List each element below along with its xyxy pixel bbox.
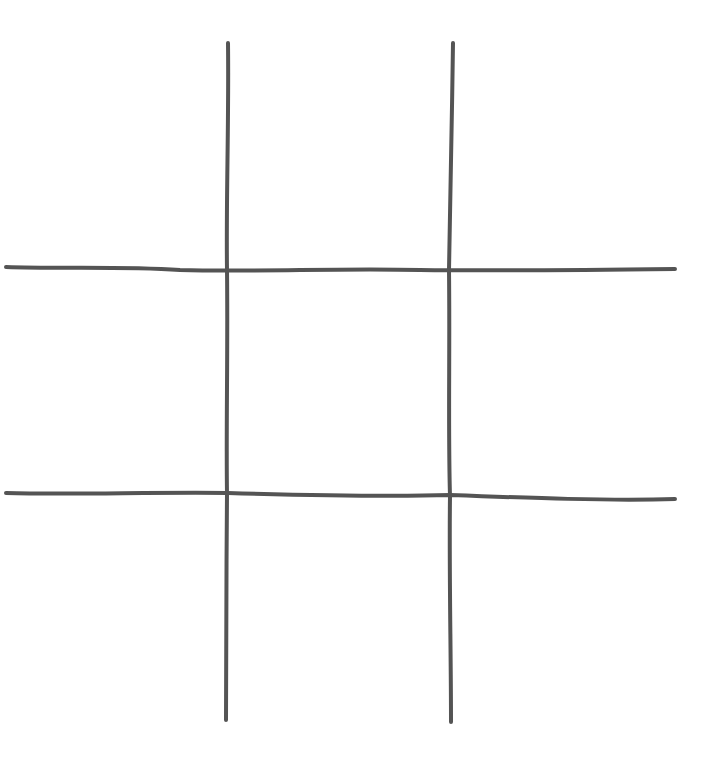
cell-2[interactable] (453, 0, 710, 268)
cell-3[interactable] (0, 272, 226, 492)
cell-1[interactable] (230, 0, 449, 268)
tic-tac-toe-board (0, 0, 710, 763)
cell-6[interactable] (0, 497, 226, 763)
cell-7[interactable] (230, 497, 449, 763)
cell-5[interactable] (453, 272, 710, 492)
cell-8[interactable] (453, 497, 710, 763)
cell-0[interactable] (0, 0, 226, 268)
cell-4[interactable] (230, 272, 449, 492)
vertical-line-left (226, 43, 228, 720)
